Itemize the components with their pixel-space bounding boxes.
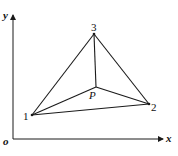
edge-P-1 [32, 87, 96, 115]
triangle-diagram: y x o 3 2 1 P [0, 0, 178, 156]
edge-P-2 [96, 87, 149, 104]
edge-3-1 [32, 34, 94, 115]
edge-P-3 [94, 34, 96, 87]
vertex-2 [148, 103, 151, 106]
y-axis-label: y [1, 9, 8, 21]
edge-1-2 [32, 104, 149, 115]
vertex-label-1: 1 [23, 110, 29, 122]
origin-label: o [3, 135, 9, 147]
edge-2-3 [94, 34, 149, 104]
point-label-P: P [88, 89, 96, 101]
vertex-label-2: 2 [151, 101, 157, 113]
x-axis-label: x [165, 132, 172, 144]
vertex-3 [93, 33, 96, 36]
diagram-svg: y x o 3 2 1 P [0, 0, 178, 156]
vertex-1 [31, 114, 34, 117]
vertex-label-3: 3 [91, 21, 97, 33]
